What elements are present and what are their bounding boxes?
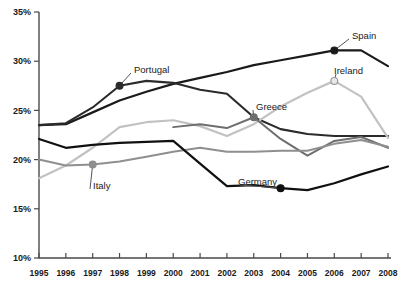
- chart-plot-area: 10%15%20%25%30%35%1995199619971998199920…: [0, 0, 403, 291]
- x-axis-tick-label: 1995: [30, 268, 49, 278]
- series-marker-ireland[interactable]: [331, 77, 338, 84]
- x-axis-tick-label: 1997: [83, 268, 102, 278]
- series-marker-greece[interactable]: [250, 114, 257, 121]
- x-axis-tick-label: 2006: [325, 268, 344, 278]
- series-label-greece: Greece: [256, 101, 287, 112]
- series-label-portugal: Portugal: [134, 64, 169, 75]
- y-axis-tick-label: 20%: [13, 155, 31, 165]
- x-axis-tick-label: 2001: [191, 268, 210, 278]
- x-axis-tick-label: 2005: [298, 268, 317, 278]
- series-label-ireland: Ireland: [334, 65, 363, 76]
- x-axis-tick-label: 1998: [110, 268, 129, 278]
- series-label-spain: Spain: [352, 30, 376, 41]
- series-marker-spain[interactable]: [331, 47, 338, 54]
- y-axis-tick-label: 15%: [13, 204, 31, 214]
- series-marker-portugal[interactable]: [116, 82, 123, 89]
- x-axis-tick-label: 1996: [56, 268, 75, 278]
- y-axis-tick-label: 25%: [13, 106, 31, 116]
- series-label-germany: Germany: [238, 176, 277, 187]
- x-axis-tick-label: 1999: [137, 268, 156, 278]
- series-marker-germany[interactable]: [277, 185, 284, 192]
- x-axis-tick-label: 2007: [352, 268, 371, 278]
- y-axis-tick-label: 30%: [13, 56, 31, 66]
- series-line-portugal: [39, 81, 388, 136]
- x-axis-tick-label: 2000: [164, 268, 183, 278]
- series-marker-italy[interactable]: [89, 161, 96, 168]
- y-axis-tick-label: 10%: [13, 253, 31, 263]
- line-chart: 10%15%20%25%30%35%1995199619971998199920…: [0, 0, 403, 291]
- y-axis-tick-label: 35%: [13, 7, 31, 17]
- series-label-italy: Italy: [93, 180, 111, 191]
- x-axis-tick-label: 2008: [379, 268, 398, 278]
- x-axis-tick-label: 2003: [244, 268, 263, 278]
- series-line-spain: [39, 50, 388, 125]
- x-axis-tick-label: 2002: [217, 268, 236, 278]
- x-axis-tick-label: 2004: [271, 268, 290, 278]
